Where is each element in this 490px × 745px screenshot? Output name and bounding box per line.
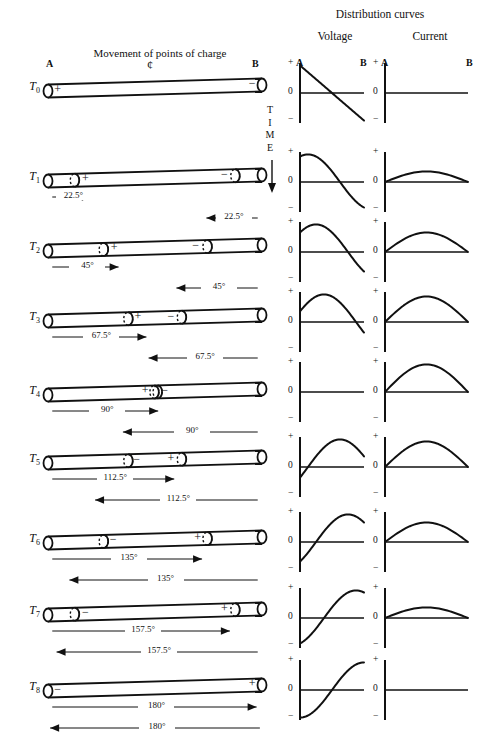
current-curve-8-tick-plus: + bbox=[373, 654, 378, 664]
reverse-displacement-arrow-6 bbox=[0, 573, 290, 587]
forward-displacement-arrow-5 bbox=[0, 472, 290, 486]
voltage-curve-1 bbox=[298, 149, 378, 215]
time-letter-e: E bbox=[262, 142, 278, 155]
voltage-curve-6 bbox=[298, 509, 378, 575]
voltage-curve-5-tick-plus: + bbox=[288, 431, 293, 441]
current-curve-3 bbox=[383, 289, 482, 355]
charge-sign-2-0: + bbox=[111, 240, 118, 255]
charge-sign-6-1: + bbox=[194, 530, 201, 545]
forward-displacement-arrow-1-label: 22.5° bbox=[56, 190, 92, 200]
voltage-curve-7-tick-minus: − bbox=[288, 639, 293, 649]
charge-sign-0-1: − bbox=[249, 76, 256, 91]
current-curve-0-tick-zero: 0 bbox=[373, 86, 378, 96]
charge-sign-1-1: − bbox=[221, 167, 228, 182]
charge-sign-7-1: + bbox=[221, 601, 228, 616]
voltage-curve-2-tick-minus: − bbox=[288, 273, 293, 283]
current-curve-5-tick-minus: − bbox=[373, 488, 378, 498]
voltage-curve-7 bbox=[298, 585, 378, 651]
reverse-displacement-arrow-4 bbox=[0, 425, 290, 439]
voltage-curve-0-tick-zero: 0 bbox=[288, 86, 293, 96]
voltage-curve-4-tick-plus: + bbox=[288, 356, 293, 366]
voltage-curve-6-tick-zero: 0 bbox=[288, 535, 293, 545]
voltage-curve-1-tick-minus: − bbox=[288, 203, 293, 213]
reverse-displacement-arrow-8-label: 180° bbox=[139, 721, 175, 731]
voltage-curve-6-tick-plus: + bbox=[288, 506, 293, 516]
current-curve-5-tick-zero: 0 bbox=[373, 460, 378, 470]
voltage-curve-0-tick-plus: + bbox=[288, 57, 293, 67]
current-curve-6-tick-zero: 0 bbox=[373, 535, 378, 545]
charge-sign-7-0: − bbox=[82, 605, 89, 620]
forward-displacement-arrow-3 bbox=[0, 330, 290, 344]
charge-sign-4-1: − bbox=[161, 383, 168, 398]
current-curve-4-tick-plus: + bbox=[373, 356, 378, 366]
voltage-curve-8 bbox=[298, 657, 378, 723]
time-letter-m: M bbox=[262, 129, 278, 142]
voltage-curve-8-tick-minus: − bbox=[288, 711, 293, 721]
current-curve-8 bbox=[383, 657, 482, 723]
charge-sign-0-0: + bbox=[54, 82, 61, 97]
forward-displacement-arrow-8-label: 180° bbox=[138, 700, 174, 710]
current-curve-8-tick-minus: − bbox=[373, 711, 378, 721]
reverse-displacement-arrow-2 bbox=[0, 281, 290, 295]
voltage-curve-2-tick-zero: 0 bbox=[288, 245, 293, 255]
charge-rod-0 bbox=[0, 68, 290, 108]
current-curve-2-tick-zero: 0 bbox=[373, 245, 378, 255]
reverse-displacement-arrow-3 bbox=[0, 351, 290, 365]
current-curve-7 bbox=[383, 585, 482, 651]
charge-sign-1-0: + bbox=[82, 171, 89, 186]
reverse-displacement-arrow-3-label: 67.5° bbox=[187, 351, 223, 361]
voltage-curve-6-tick-minus: − bbox=[288, 563, 293, 573]
charge-sign-8-1: + bbox=[249, 676, 256, 691]
current-curve-2 bbox=[383, 219, 482, 285]
voltage-curve-1-tick-zero: 0 bbox=[288, 175, 293, 185]
voltage-curve-5-tick-minus: − bbox=[288, 488, 293, 498]
voltage-curve-3-tick-minus: − bbox=[288, 343, 293, 353]
voltage-curve-2 bbox=[298, 219, 378, 285]
reverse-displacement-arrow-6-label: 135° bbox=[148, 573, 184, 583]
current-column-title: Current bbox=[390, 30, 470, 42]
current-curve-6-tick-minus: − bbox=[373, 563, 378, 573]
voltage-curve-0-tick-minus: − bbox=[288, 114, 293, 124]
time-axis-label: T I M E bbox=[262, 104, 278, 154]
forward-displacement-arrow-1 bbox=[0, 190, 290, 204]
reverse-displacement-arrow-5-label: 112.5° bbox=[160, 493, 196, 503]
forward-displacement-arrow-3-label: 67.5° bbox=[83, 330, 119, 340]
current-curve-1-tick-zero: 0 bbox=[373, 175, 378, 185]
forward-displacement-arrow-2-label: 45° bbox=[69, 260, 105, 270]
charge-sign-5-1: + bbox=[168, 451, 175, 466]
current-curve-4 bbox=[383, 359, 482, 425]
voltage-curve-7-tick-zero: 0 bbox=[288, 611, 293, 621]
current-curve-6 bbox=[383, 509, 482, 575]
current-curve-1-tick-minus: − bbox=[373, 203, 378, 213]
voltage-curve-3-tick-zero: 0 bbox=[288, 315, 293, 325]
voltage-curve-3 bbox=[298, 289, 378, 355]
voltage-curve-5 bbox=[298, 434, 378, 500]
forward-displacement-arrow-7-label: 157.5° bbox=[125, 624, 161, 634]
voltage-curve-5-tick-zero: 0 bbox=[288, 460, 293, 470]
current-curve-1 bbox=[383, 149, 482, 215]
voltage-curve-1-tick-plus: + bbox=[288, 146, 293, 156]
voltage-curve-4-tick-zero: 0 bbox=[288, 385, 293, 395]
current-curve-7-tick-plus: + bbox=[373, 582, 378, 592]
reverse-displacement-arrow-2-label: 45° bbox=[201, 281, 237, 291]
current-curve-7-tick-zero: 0 bbox=[373, 611, 378, 621]
current-curve-4-tick-zero: 0 bbox=[373, 385, 378, 395]
voltage-curve-0 bbox=[298, 60, 378, 126]
current-curve-3-tick-minus: − bbox=[373, 343, 378, 353]
forward-displacement-arrow-2 bbox=[0, 260, 290, 274]
voltage-curve-8-tick-plus: + bbox=[288, 654, 293, 664]
current-curve-0 bbox=[383, 60, 482, 126]
forward-displacement-arrow-4-label: 90° bbox=[89, 404, 125, 414]
forward-displacement-arrow-4 bbox=[0, 404, 290, 418]
charge-sign-2-1: − bbox=[192, 238, 199, 253]
voltage-curve-2-tick-plus: + bbox=[288, 216, 293, 226]
forward-displacement-arrow-5-label: 112.5° bbox=[97, 472, 133, 482]
current-curve-0-tick-plus: + bbox=[373, 57, 378, 67]
distribution-curves-title: Distribution curves bbox=[300, 8, 460, 20]
current-curve-3-tick-plus: + bbox=[373, 286, 378, 296]
charge-sign-3-1: − bbox=[168, 309, 175, 324]
voltage-curve-4-tick-minus: − bbox=[288, 413, 293, 423]
current-curve-5-tick-plus: + bbox=[373, 431, 378, 441]
reverse-displacement-arrow-1-label: 22.5° bbox=[216, 211, 252, 221]
voltage-curve-4 bbox=[298, 359, 378, 425]
